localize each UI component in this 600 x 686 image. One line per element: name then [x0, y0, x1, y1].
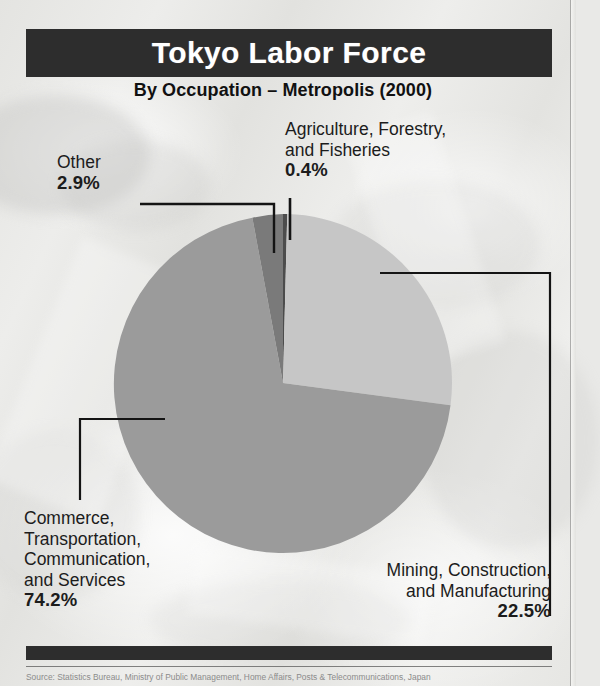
callout-other-name: Other	[57, 152, 101, 173]
callout-mining-pct: 22.5%	[311, 601, 551, 622]
callout-mining: Mining, Construction, and Manufacturing …	[311, 560, 551, 622]
callout-mining-line2: and Manufacturing	[311, 581, 551, 602]
footer-bar	[26, 646, 552, 660]
pie-slice-mining	[283, 214, 452, 405]
callout-commerce-line3: Communication,	[24, 549, 150, 570]
callout-other: Other 2.9%	[57, 152, 101, 193]
source-caption: Source: Statistics Bureau, Ministry of P…	[26, 672, 566, 682]
callout-agriculture-line1: Agriculture, Forestry,	[285, 119, 446, 140]
footer-hairline	[26, 666, 552, 667]
callout-commerce-line2: Transportation,	[24, 529, 150, 550]
callout-commerce-line4: and Services	[24, 570, 150, 591]
callout-agriculture-line2: and Fisheries	[285, 140, 446, 161]
callout-commerce: Commerce, Transportation, Communication,…	[24, 508, 150, 611]
callout-commerce-line1: Commerce,	[24, 508, 150, 529]
callout-agriculture: Agriculture, Forestry, and Fisheries 0.4…	[285, 119, 446, 181]
callout-commerce-pct: 74.2%	[24, 590, 150, 611]
callout-other-pct: 2.9%	[57, 173, 101, 194]
callout-mining-line1: Mining, Construction,	[311, 560, 551, 581]
callout-agriculture-pct: 0.4%	[285, 160, 446, 181]
